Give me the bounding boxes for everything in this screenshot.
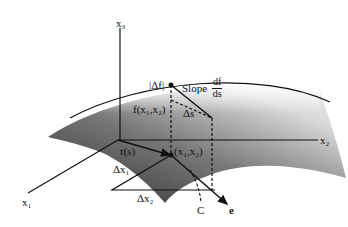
diagram-canvas bbox=[0, 0, 348, 227]
slope-numerator: df bbox=[212, 77, 222, 89]
delta-x1-label: Δx₁ bbox=[113, 164, 129, 175]
slope-denominator: ds bbox=[212, 89, 222, 100]
x2-axis-label: x₂ bbox=[320, 135, 329, 146]
delta-f-label: |Δf| bbox=[149, 80, 164, 91]
slope-fraction: df ds bbox=[212, 77, 222, 99]
x3-axis-label: x₃ bbox=[116, 18, 125, 29]
r-s-label: r(s) bbox=[120, 146, 135, 157]
point-label: (x₁,x₂) bbox=[174, 146, 203, 157]
directional-derivative-diagram: x₃ x₂ x₁ |Δf| Slope df ds f(x₁,x₂) Δs (x… bbox=[0, 0, 348, 227]
delta-x2-label: Δx₂ bbox=[137, 193, 153, 204]
vector-e-label: e bbox=[229, 205, 234, 216]
slope-label: Slope bbox=[182, 83, 207, 94]
curve-c-label: C bbox=[197, 205, 204, 216]
f-value-label: f(x₁,x₂) bbox=[133, 104, 165, 115]
delta-s-label: Δs bbox=[183, 108, 194, 119]
x1-axis-label: x₁ bbox=[22, 197, 31, 208]
x1-axis bbox=[28, 140, 118, 193]
